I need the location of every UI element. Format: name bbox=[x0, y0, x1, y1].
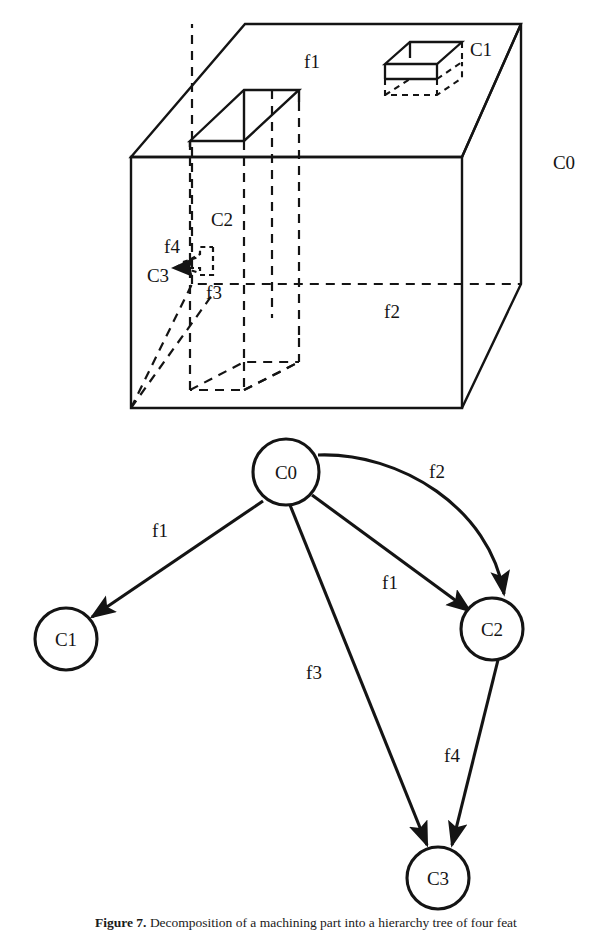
solid-label-c2: C2 bbox=[211, 209, 233, 230]
graph-node-c0-label: C0 bbox=[275, 462, 297, 483]
pocket-c2-top-rim bbox=[190, 90, 299, 147]
graph-edge-label-f3: f3 bbox=[306, 662, 322, 683]
graph-edge-c0-c2-f2 bbox=[318, 455, 504, 594]
solid-label-c3: C3 bbox=[147, 265, 169, 286]
figure-caption: Figure 7. Decomposition of a machining p… bbox=[95, 915, 535, 930]
graph-node-c2-label: C2 bbox=[481, 619, 503, 640]
graph-edge-c0-c2-f1 bbox=[312, 495, 470, 611]
feature-c1-hidden bbox=[385, 42, 462, 95]
solid-label-f1: f1 bbox=[304, 51, 320, 72]
graph-node-c1[interactable]: C1 bbox=[35, 608, 97, 670]
solid-label-f3: f3 bbox=[206, 282, 222, 303]
graph-node-c1-label: C1 bbox=[55, 629, 77, 650]
graph-edge-label-f4: f4 bbox=[444, 745, 460, 766]
solid-label-c0: C0 bbox=[553, 152, 575, 173]
feature-c1-solid bbox=[385, 42, 462, 79]
figure-drawing: f1 C1 C0 C2 f4 C3 f3 f2 C0 bbox=[0, 0, 597, 930]
graph-node-c3-label: C3 bbox=[427, 868, 449, 889]
solid-label-f2: f2 bbox=[384, 301, 400, 322]
graph-edge-label-f1-c1: f1 bbox=[152, 520, 168, 541]
figure-container: f1 C1 C0 C2 f4 C3 f3 f2 C0 bbox=[0, 0, 597, 930]
solid-label-f4: f4 bbox=[164, 236, 180, 257]
graph-node-c3[interactable]: C3 bbox=[407, 847, 469, 909]
graph-nodes: C0 C1 C2 C3 bbox=[35, 439, 523, 909]
graph-node-c0[interactable]: C0 bbox=[253, 439, 319, 505]
graph-edge-c0-c1 bbox=[92, 501, 263, 617]
graph-edge-label-f1-c2: f1 bbox=[382, 572, 398, 593]
graph-node-c2[interactable]: C2 bbox=[461, 598, 523, 660]
figure-caption-label: Figure 7. bbox=[95, 915, 147, 930]
feature-c3-solid bbox=[171, 258, 193, 277]
solid-label-c1: C1 bbox=[470, 39, 492, 60]
hierarchy-graph-group: C0 C1 C2 C3 f1 f2 f1 f3 f4 bbox=[35, 439, 523, 909]
figure-caption-text: Decomposition of a machining part into a… bbox=[147, 915, 517, 930]
graph-edge-label-f2: f2 bbox=[429, 461, 445, 482]
solid-model-group: f1 C1 C0 C2 f4 C3 f3 f2 bbox=[131, 24, 575, 408]
